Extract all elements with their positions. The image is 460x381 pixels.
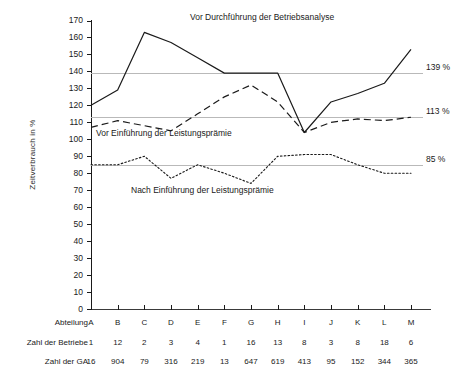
table-cell: 6 bbox=[409, 338, 413, 347]
table-cell: 12 bbox=[113, 338, 122, 347]
table-cell: 8 bbox=[355, 338, 359, 347]
table-cell: 16 bbox=[87, 357, 96, 366]
table-cell: 219 bbox=[191, 357, 204, 366]
table-cell: M bbox=[408, 318, 415, 327]
table-cell: 16 bbox=[247, 338, 256, 347]
x-tick-mark-E bbox=[198, 305, 199, 310]
figure-caption bbox=[8, 372, 448, 381]
x-tick-mark-I bbox=[304, 305, 305, 310]
table-cell: K bbox=[355, 318, 360, 327]
x-tick-mark-D bbox=[171, 305, 172, 310]
table-cell: C bbox=[141, 318, 147, 327]
table-cell: 2 bbox=[142, 338, 146, 347]
chart-figure: Zeitverbrauch in % 170160150140130120110… bbox=[0, 0, 460, 381]
y-tick-label-80: 80 bbox=[37, 169, 83, 177]
y-tick-label-140: 140 bbox=[37, 67, 83, 75]
table-cell: D bbox=[168, 318, 174, 327]
table-cell: 1 bbox=[89, 338, 93, 347]
y-tick-label-0: 0 bbox=[37, 305, 83, 313]
table-cell: 13 bbox=[220, 357, 229, 366]
y-tick-label-110: 110 bbox=[37, 118, 83, 126]
table-cell: 904 bbox=[111, 357, 124, 366]
reference-label-139: 139 % bbox=[426, 62, 450, 72]
table-cell: 79 bbox=[140, 357, 149, 366]
y-tick-label-60: 60 bbox=[37, 203, 83, 211]
table-cell: 18 bbox=[380, 338, 389, 347]
table-cell: 3 bbox=[329, 338, 333, 347]
table-cell: 365 bbox=[404, 357, 417, 366]
table-cell: 13 bbox=[273, 338, 282, 347]
y-tick-label-120: 120 bbox=[37, 101, 83, 109]
table-cell: 95 bbox=[327, 357, 336, 366]
y-tick-label-70: 70 bbox=[37, 186, 83, 194]
table-cell: A bbox=[88, 318, 93, 327]
table-cell: 152 bbox=[351, 357, 364, 366]
y-tick-label-150: 150 bbox=[37, 50, 83, 58]
y-tick-label-30: 30 bbox=[37, 254, 83, 262]
table-cell: B bbox=[115, 318, 120, 327]
x-tick-mark-H bbox=[278, 305, 279, 310]
x-tick-mark-A bbox=[91, 305, 92, 310]
series-label-dotted: Nach Einführung der Leistungsprämie bbox=[131, 185, 274, 195]
table-cell: 647 bbox=[244, 357, 257, 366]
x-tick-mark-C bbox=[144, 305, 145, 310]
reference-label-113: 113 % bbox=[426, 106, 449, 116]
x-tick-mark-M bbox=[411, 305, 412, 310]
table-cell: 344 bbox=[378, 357, 391, 366]
table-cell: E bbox=[195, 318, 200, 327]
series-line-dotted bbox=[91, 155, 411, 184]
table-cell: 4 bbox=[195, 338, 199, 347]
table-cell: 8 bbox=[302, 338, 306, 347]
x-tick-mark-L bbox=[384, 305, 385, 310]
reference-label-85: 85 % bbox=[426, 154, 445, 164]
table-cell: G bbox=[248, 318, 254, 327]
x-tick-mark-J bbox=[331, 305, 332, 310]
table-cell: I bbox=[303, 318, 305, 327]
table-cell: 413 bbox=[298, 357, 311, 366]
x-tick-mark-K bbox=[358, 305, 359, 310]
table-row-label: Zahl der Betriebe bbox=[0, 338, 88, 347]
y-axis-title: Zeitverbrauch in % bbox=[28, 75, 37, 235]
y-tick-label-160: 160 bbox=[37, 33, 83, 41]
x-axis-line bbox=[91, 309, 431, 310]
table-cell: 1 bbox=[222, 338, 226, 347]
y-tick-label-40: 40 bbox=[37, 237, 83, 245]
reference-line-113 bbox=[91, 117, 423, 118]
y-tick-label-50: 50 bbox=[37, 220, 83, 228]
y-tick-label-100: 100 bbox=[37, 135, 83, 143]
table-cell: J bbox=[329, 318, 333, 327]
y-tick-label-90: 90 bbox=[37, 152, 83, 160]
series-line-dashed bbox=[91, 85, 411, 133]
y-tick-label-130: 130 bbox=[37, 84, 83, 92]
x-tick-mark-G bbox=[251, 305, 252, 310]
series-label-solid: Vor Durchführung der Betriebsanalyse bbox=[190, 12, 334, 22]
table-cell: 619 bbox=[271, 357, 284, 366]
reference-line-139 bbox=[91, 73, 423, 74]
y-tick-label-170: 170 bbox=[37, 16, 83, 24]
table-cell: 316 bbox=[164, 357, 177, 366]
table-cell: 3 bbox=[169, 338, 173, 347]
y-tick-label-20: 20 bbox=[37, 271, 83, 279]
y-tick-label-10: 10 bbox=[37, 288, 83, 296]
series-label-dashed: Vor Einführung der Leistungsprämie bbox=[96, 128, 232, 138]
table-row-label: Zahl der GA bbox=[0, 357, 88, 366]
reference-line-85 bbox=[91, 165, 423, 166]
x-tick-mark-F bbox=[224, 305, 225, 310]
table-cell: L bbox=[382, 318, 386, 327]
table-row-label: Abteilung bbox=[0, 318, 88, 327]
x-tick-mark-B bbox=[118, 305, 119, 310]
table-cell: F bbox=[222, 318, 227, 327]
table-cell: H bbox=[275, 318, 281, 327]
